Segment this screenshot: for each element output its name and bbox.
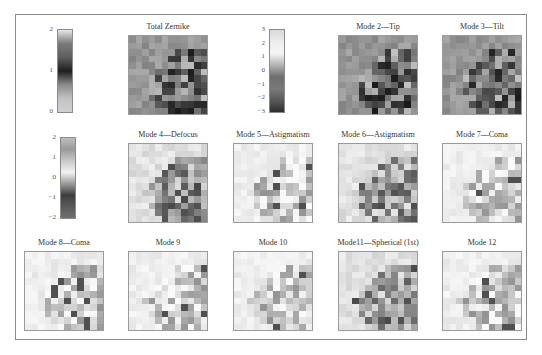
heatmap-image — [128, 143, 208, 223]
colorbar-tick-label: 2 — [39, 25, 53, 33]
panel-title: Mode 3—Tilt — [412, 22, 542, 31]
heatmap-image — [233, 251, 313, 331]
colorbar-tick-label: 0 — [251, 66, 265, 74]
colorbar-tick-label: −1 — [42, 193, 56, 201]
colorbar-tick-label: −2 — [251, 93, 265, 101]
heatmap-image — [338, 143, 418, 223]
colorbar-tick-label: −1 — [251, 80, 265, 88]
colorbar-tick-label: 3 — [251, 25, 265, 33]
heatmap-image — [128, 251, 208, 331]
panel-title: Mode 12 — [412, 238, 542, 247]
heatmap-image — [442, 251, 522, 331]
colorbar-tick-label: 2 — [251, 39, 265, 47]
heatmap-image — [233, 143, 313, 223]
colorbar-tick-label: 1 — [39, 66, 53, 74]
panel-title: Mode 7—Coma — [412, 130, 542, 139]
colorbar-tick-label: 0 — [42, 173, 56, 181]
colorbar-tick-label: 0 — [39, 107, 53, 115]
colorbar — [269, 29, 285, 113]
colorbar-tick-label: 1 — [42, 153, 56, 161]
heatmap-image — [338, 251, 418, 331]
colorbar-tick-label: −2 — [42, 213, 56, 221]
panel-title: Total Zernike — [98, 22, 238, 31]
colorbar — [60, 137, 76, 219]
heatmap-image — [442, 35, 522, 115]
colorbar-tick-label: −3 — [251, 107, 265, 115]
colorbar-tick-label: 1 — [251, 52, 265, 60]
colorbar-tick-label: 2 — [42, 133, 56, 141]
heatmap-image — [24, 251, 104, 331]
colorbar — [57, 29, 73, 113]
heatmap-image — [338, 35, 418, 115]
heatmap-image — [442, 143, 522, 223]
heatmap-image — [128, 35, 208, 115]
